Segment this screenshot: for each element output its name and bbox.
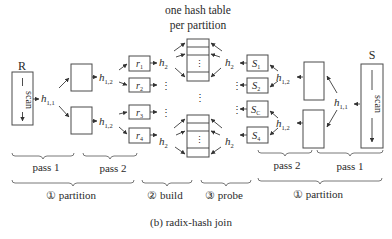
partition-r4: r4 <box>129 128 150 143</box>
right-pass1-partition-top <box>304 62 324 100</box>
figure-caption: (b) radix-hash join <box>150 216 232 229</box>
ellipsis: ⋮ <box>232 104 242 115</box>
scan-s-label: scan <box>373 95 384 113</box>
partition-s2: S2 <box>247 78 268 93</box>
relation-s-label: S <box>369 48 376 62</box>
hash-h2-build-bottom: h2 <box>159 135 168 149</box>
left-pass-2-label: pass 2 <box>99 162 126 174</box>
header-line-1: one hash table <box>165 4 231 16</box>
hash-h12-left-bottom: h1,2 <box>99 115 113 129</box>
hash-h12-right-bottom: h1,2 <box>276 117 290 131</box>
hash-h11-right: h1,1 <box>334 96 348 110</box>
phase-partition-left: ① partition <box>46 189 97 201</box>
phase-build: ② build <box>147 189 183 201</box>
left-pass-1-label: pass 1 <box>32 161 59 173</box>
partition-s1: S1 <box>247 55 268 71</box>
phase-partition-right: ① partition <box>293 188 344 200</box>
hash-h12-left-top: h1,2 <box>99 71 113 85</box>
right-pass-2-label: pass 2 <box>273 159 300 171</box>
hash-h12-right-top: h1,2 <box>276 71 290 85</box>
ellipsis: ⋮ <box>161 107 171 118</box>
header-line-2: per partition <box>170 19 227 32</box>
phase-probe: ③ probe <box>205 189 243 201</box>
radix-hash-join-diagram: one hash table per partition R scan h1,1… <box>0 0 392 239</box>
relation-r-box: scan <box>12 72 35 125</box>
right-pass-1-label: pass 1 <box>336 160 363 172</box>
partition-s4: S4 <box>247 127 268 143</box>
partition-r1: r1 <box>129 56 150 71</box>
left-pass1-partition-top <box>71 64 92 91</box>
hash-table-top: ⋮ <box>187 39 209 81</box>
hash-h11-left: h1,1 <box>41 92 55 106</box>
relation-s-box: scan <box>361 64 384 148</box>
svg-text:⋮: ⋮ <box>195 135 204 145</box>
right-pass1-partition-bottom <box>303 110 324 148</box>
ellipsis: ⋮ <box>232 80 242 91</box>
hash-h2-probe-top: h2 <box>225 56 234 70</box>
partition-r3: r3 <box>129 105 150 119</box>
ellipsis: ⋮ <box>161 80 171 91</box>
hash-h2-build-top: h2 <box>159 56 168 70</box>
svg-text:⋮: ⋮ <box>195 59 204 69</box>
scan-r-label: scan <box>24 91 35 109</box>
hash-table-bottom: ⋮ <box>187 115 209 157</box>
ellipsis: ⋮ <box>195 92 205 103</box>
left-pass1-partition-bottom <box>71 107 92 134</box>
hash-h2-probe-bottom: h2 <box>225 135 234 149</box>
partition-sc: SC <box>247 101 268 117</box>
relation-r-label: R <box>18 59 26 73</box>
partition-r2: r2 <box>129 78 150 92</box>
